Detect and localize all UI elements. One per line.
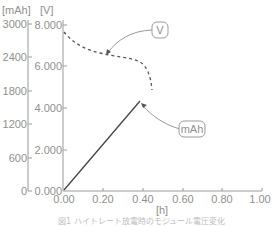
- v-series-line: [64, 32, 152, 90]
- chart: [mAh] [V] 3000 2400 1800 1200 600 0 8.00…: [0, 0, 273, 226]
- mah-tick-label: 2400: [3, 51, 27, 63]
- x-axis-label: [h]: [156, 204, 168, 216]
- v-callout-leader: [108, 30, 152, 52]
- x-tick-label: 1.00: [249, 193, 270, 205]
- mah-series-line: [64, 101, 140, 190]
- mah-tick-label: 0: [21, 185, 27, 197]
- mah-tick-label: 3000: [3, 18, 27, 30]
- v-tick-label: 4.000: [34, 102, 62, 114]
- x-tick-label: 0.60: [172, 193, 193, 205]
- mah-callout-leader: [143, 106, 180, 129]
- v-ticks: 8.000 6.000 4.000 2.000 0.000: [34, 19, 67, 197]
- x-tick-label: 0.20: [92, 193, 113, 205]
- mah-callout-label: mAh: [181, 123, 204, 135]
- v-tick-label: 2.000: [34, 144, 62, 156]
- x-tick-label: 0.40: [132, 193, 153, 205]
- mah-tick-label: 600: [9, 152, 27, 164]
- v-unit-label: [V]: [40, 4, 53, 16]
- figure-caption: 図1 ハイトレート放電時のモジュール電圧変化: [58, 216, 225, 226]
- mah-unit-label: [mAh]: [2, 4, 31, 16]
- x-tick-label: 0.80: [211, 193, 232, 205]
- mah-tick-label: 1800: [3, 85, 27, 97]
- v-tick-label: 8.000: [34, 19, 62, 31]
- v-callout-label: V: [156, 24, 164, 36]
- v-tick-label: 6.000: [34, 60, 62, 72]
- mah-tick-label: 1200: [3, 118, 27, 130]
- arrow-head-icon: [141, 103, 147, 108]
- x-tick-label: 0.00: [53, 193, 74, 205]
